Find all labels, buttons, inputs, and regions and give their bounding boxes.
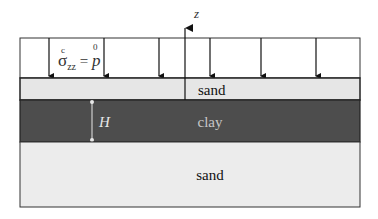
layer-clay: clay H xyxy=(20,100,360,142)
layer-label-sand-bottom: sand xyxy=(196,167,224,183)
load-label-sup-0: 0 xyxy=(93,42,98,52)
layer-sand-bottom: sand xyxy=(20,142,360,207)
thickness-label: H xyxy=(98,114,111,130)
layer-sand-top: sand xyxy=(20,78,360,100)
soil-consolidation-diagram: σzz = p c 0 sand clay H sand z xyxy=(0,0,378,219)
load-label-sup-c: c xyxy=(61,45,65,55)
layer-label-sand-top: sand xyxy=(198,82,226,98)
load-region: σzz = p c 0 xyxy=(20,38,360,78)
z-axis-label: z xyxy=(193,6,199,21)
layer-label-clay: clay xyxy=(198,114,223,130)
